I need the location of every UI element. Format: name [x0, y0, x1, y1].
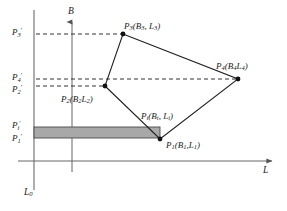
- figure-canvas: B L L0 P3′ P4′ P2′ Pi′ P1′ P3(B3, L3) P4…: [0, 0, 287, 211]
- l-axis-label: L: [263, 166, 268, 176]
- b-axis-label: B: [68, 7, 74, 17]
- point-label-p3: P3(B3, L3): [124, 22, 160, 32]
- point-label-p4: P4(B4L4): [216, 62, 248, 72]
- tick-label-p1-prime: P1′: [12, 133, 22, 144]
- tick-label-pi-prime: Pi′: [12, 120, 21, 131]
- point-label-pi: Pi(Bi, Li): [141, 112, 173, 122]
- tick-label-p4-prime: P4′: [12, 72, 22, 83]
- vertex-dot-p4: [236, 77, 241, 82]
- point-label-p2: P2(B2L2): [61, 95, 93, 105]
- boundary-line-label: L0: [24, 188, 33, 198]
- point-label-p1: P1(B1,L1): [166, 141, 200, 151]
- vertex-dot-p2: [103, 84, 108, 89]
- tick-label-p3-prime: P3′: [12, 27, 22, 38]
- vertex-dot-p3: [121, 32, 126, 37]
- quadrilateral-region: [105, 34, 238, 139]
- tick-label-p2-prime: P2′: [12, 84, 22, 95]
- vertex-dot-p1: [158, 137, 163, 142]
- shaded-band: [34, 127, 160, 138]
